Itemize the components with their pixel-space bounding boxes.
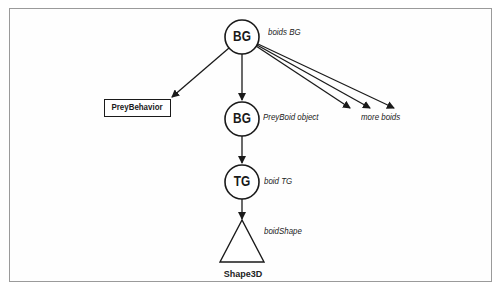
- edge-root-to-more-boids-3: [258, 44, 394, 108]
- root-bg-label: BG: [227, 28, 258, 44]
- root-bg-caption: boids BG: [268, 27, 301, 37]
- edge-root-to-preybehavior: [172, 48, 229, 97]
- boid-bg-caption: PreyBoid object: [263, 112, 318, 122]
- diagram-edges: [0, 0, 499, 297]
- boid-shape-caption: boidShape: [264, 226, 302, 236]
- prey-behavior-box: PreyBehavior: [104, 99, 171, 117]
- more-boids-caption: more boids: [361, 112, 400, 122]
- boid-tg-label: TG: [227, 173, 258, 189]
- edge-root-to-more-boids-1: [256, 46, 350, 108]
- shape3d-label: Shape3D: [223, 269, 263, 279]
- shape3d-triangle: [220, 220, 264, 262]
- edge-root-to-more-boids-2: [257, 45, 370, 108]
- prey-behavior-label: PreyBehavior: [112, 100, 163, 115]
- boid-bg-label: BG: [227, 110, 258, 126]
- boid-tg-caption: boid TG: [264, 176, 292, 186]
